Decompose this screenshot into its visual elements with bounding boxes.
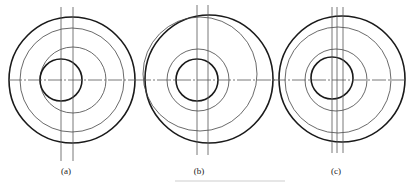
concentric-circles-diagram [0,0,408,184]
figure-caption-faint [175,180,285,182]
outer-circle-c [279,16,405,142]
panel-label-b: (b) [194,166,205,176]
outer-circle-b [145,15,273,143]
panel-label-c: (c) [331,166,341,176]
panel-label-a: (a) [61,166,71,176]
large-thin-circle-b [143,17,257,131]
